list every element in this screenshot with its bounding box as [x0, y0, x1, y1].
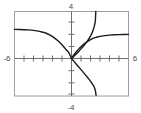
x-axis-min-label: -6	[3, 54, 11, 63]
coordinate-plot: 4 -4 -6 6	[0, 0, 141, 113]
graph-figure: 4 -4 -6 6	[0, 0, 141, 113]
y-axis-min-label: -4	[67, 103, 75, 112]
y-axis-max-label: 4	[69, 2, 74, 11]
x-axis-max-label: 6	[133, 54, 138, 63]
